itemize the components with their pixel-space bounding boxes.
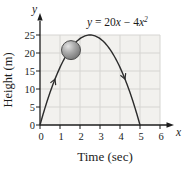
y-tick-label: 5 xyxy=(30,102,35,113)
equation-superscript: 2 xyxy=(144,15,148,24)
x-tick-label: 2 xyxy=(78,131,83,142)
y-tick-label: 0 xyxy=(30,120,35,131)
equation-part: = 20 xyxy=(92,16,116,28)
x-axis-letter: x xyxy=(175,126,182,138)
y-axis-arrowhead xyxy=(37,13,42,21)
x-tick-label: 0 xyxy=(38,131,43,142)
x-tick-label: 3 xyxy=(98,131,103,142)
height-vs-time-chart: 01234560510152025 y = 20x − 4x2 Time (se… xyxy=(0,0,186,180)
y-tick-label: 20 xyxy=(25,48,36,59)
y-axis-letter: y xyxy=(31,3,38,16)
x-tick-label: 6 xyxy=(158,131,163,142)
y-axis-title: Height (m) xyxy=(1,52,15,107)
y-tick-label: 15 xyxy=(25,66,36,77)
y-tick-label: 25 xyxy=(25,30,36,41)
x-tick-label: 5 xyxy=(138,131,143,142)
x-tick-label: 4 xyxy=(118,131,124,142)
equation-part: − 4 xyxy=(121,16,139,28)
y-tick-label: 10 xyxy=(25,84,36,95)
parabola-chart-figure: 01234560510152025 y = 20x − 4x2 Time (se… xyxy=(0,0,186,180)
x-axis-arrowhead xyxy=(167,122,175,127)
ball-marker xyxy=(62,41,81,60)
equation-label: y = 20x − 4x2 xyxy=(86,15,148,29)
x-axis-title: Time (sec) xyxy=(77,149,133,164)
x-tick-label: 1 xyxy=(58,131,63,142)
